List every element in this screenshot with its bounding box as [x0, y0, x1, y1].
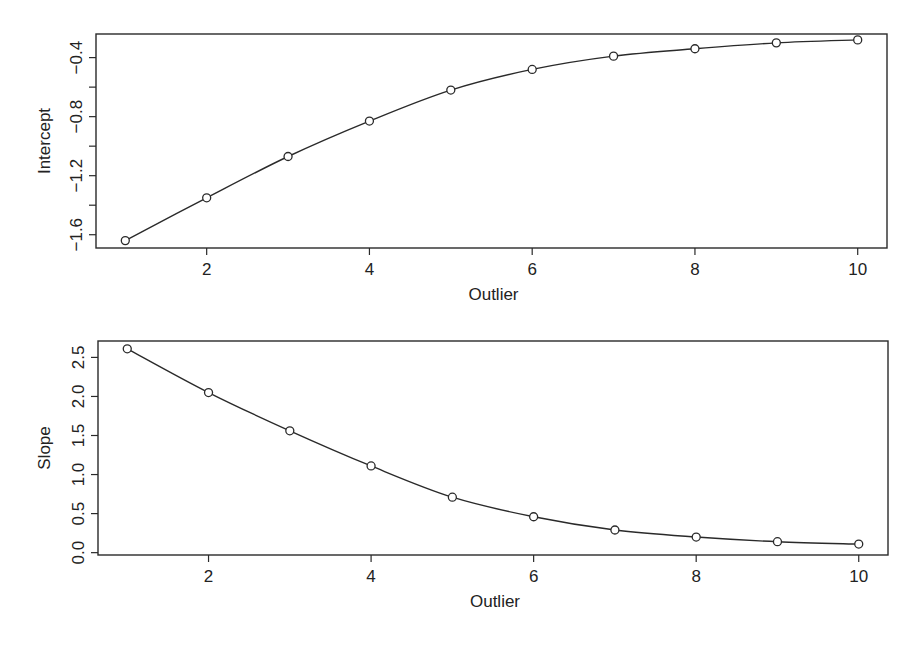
x-tick-label: 2: [202, 260, 211, 279]
y-tick-label: 0.0: [69, 541, 88, 565]
slope-panel: 2468100.00.51.01.52.02.5SlopeOutlier: [35, 341, 888, 611]
y-tick-label: 2.0: [69, 385, 88, 409]
data-point-marker: [530, 513, 538, 521]
data-point-marker: [448, 493, 456, 501]
data-point-marker: [123, 345, 131, 353]
x-axis-label: Outlier: [468, 285, 518, 304]
data-point-marker: [855, 540, 863, 548]
x-tick-label: 2: [204, 567, 213, 586]
series-line: [127, 349, 858, 544]
data-point-marker: [772, 39, 780, 47]
data-point-marker: [611, 526, 619, 534]
data-point-marker: [121, 237, 129, 245]
x-tick-label: 10: [849, 567, 868, 586]
y-axis-label: Slope: [35, 426, 54, 469]
y-tick-label: −0.8: [67, 100, 86, 134]
data-point-marker: [447, 86, 455, 94]
data-point-marker: [854, 36, 862, 44]
data-point-marker: [692, 533, 700, 541]
x-axis: 246810: [202, 248, 867, 279]
y-tick-label: 0.5: [69, 502, 88, 526]
chart-canvas: 246810−1.6−1.2−0.8−0.4InterceptOutlier 2…: [0, 0, 923, 649]
intercept-panel: 246810−1.6−1.2−0.8−0.4InterceptOutlier: [35, 34, 887, 304]
series-line: [125, 40, 857, 241]
y-tick-label: −0.4: [67, 41, 86, 75]
data-point-marker: [528, 65, 536, 73]
data-point-marker: [284, 152, 292, 160]
y-tick-label: −1.6: [67, 218, 86, 252]
y-tick-label: −1.2: [67, 159, 86, 193]
data-point-marker: [365, 117, 373, 125]
y-tick-label: 2.5: [69, 346, 88, 370]
x-tick-label: 4: [365, 260, 374, 279]
plot-frame: [96, 34, 887, 248]
data-point-marker: [367, 462, 375, 470]
x-tick-label: 6: [527, 260, 536, 279]
y-axis: −1.6−1.2−0.8−0.4: [67, 41, 96, 252]
data-point-marker: [205, 389, 213, 397]
data-point-marker: [610, 52, 618, 60]
y-axis-label: Intercept: [35, 108, 54, 174]
y-axis: 0.00.51.01.52.02.5: [69, 346, 98, 565]
data-point-marker: [691, 45, 699, 53]
data-point-marker: [203, 194, 211, 202]
data-point-marker: [773, 538, 781, 546]
y-tick-label: 1.5: [69, 424, 88, 448]
x-tick-label: 8: [691, 567, 700, 586]
data-point-marker: [286, 427, 294, 435]
y-tick-label: 1.0: [69, 463, 88, 487]
x-axis-label: Outlier: [470, 592, 520, 611]
plot-frame: [98, 341, 888, 555]
x-tick-label: 4: [366, 567, 375, 586]
x-axis: 246810: [204, 555, 868, 586]
x-tick-label: 6: [529, 567, 538, 586]
x-tick-label: 8: [690, 260, 699, 279]
x-tick-label: 10: [848, 260, 867, 279]
